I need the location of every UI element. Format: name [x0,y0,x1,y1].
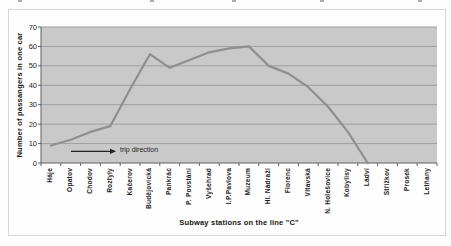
y-tick-label: 60 [17,42,37,51]
y-tick-label: 20 [17,120,37,129]
x-tick-label: Chodov [86,168,93,194]
y-tick-label: 70 [17,23,37,32]
page: Number of passangers in one car 01020304… [0,0,451,246]
y-tick-label: 40 [17,81,37,90]
cropped-text-artifact [320,0,324,2]
x-tick-label: Kačerov [126,168,133,195]
y-tick-label: 30 [17,100,37,109]
x-tick-label: N. Holešovice [324,168,331,214]
cropped-text-artifact [150,0,154,2]
x-tick-label: Vyšehrad [205,168,212,199]
x-axis-title: Subway stations on the line "C" [41,218,437,227]
chart-frame: Number of passangers in one car 01020304… [8,9,446,236]
x-tick-label: Muzeum [244,168,251,196]
y-tick-label: 0 [17,159,37,168]
cropped-text-artifact [418,0,422,2]
trip-direction-label: trip direction [120,146,158,153]
x-tick-label: Pankrác [165,168,172,195]
x-tick-label: Háje [46,168,53,183]
x-tick-label: I.P.Pavlova [225,168,232,204]
x-tick-label: Florenc [284,168,291,193]
y-tick-label: 50 [17,61,37,70]
cropped-text-artifact [232,0,236,2]
x-tick-label: Budějovická [145,168,152,209]
x-tick-label: Letňany [423,168,430,195]
cropped-text-artifact [18,0,22,2]
x-tick-label: Ládví [363,168,370,186]
x-tick-label: Střížkov [383,168,390,195]
x-tick-label: Roztyly [106,168,113,193]
x-tick-label: Prosek [403,168,410,191]
y-tick-label: 10 [17,139,37,148]
x-tick-label: Opatov [66,168,73,192]
x-tick-label: Vltavská [304,168,311,196]
x-tick-label: Kobylisy [343,168,350,197]
x-tick-label: Hl. Nádraží [264,168,271,204]
x-tick-label: P. Povstání [185,168,192,205]
y-axis-title: Number of passangers in one car [15,10,27,180]
